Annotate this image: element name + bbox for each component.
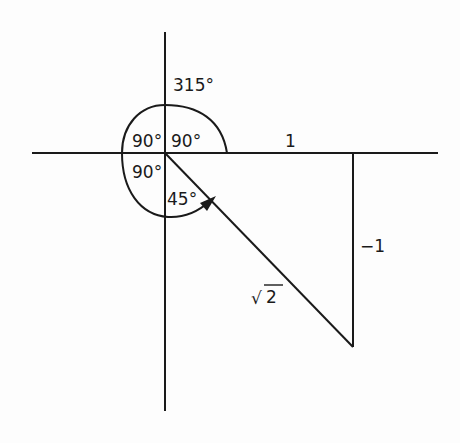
- radical-sign-icon: √: [251, 288, 262, 308]
- triangle-hypotenuse: [165, 153, 353, 347]
- radicand-2: 2: [266, 287, 277, 307]
- label-45-degrees: 45°: [167, 189, 197, 209]
- label-315-degrees: 315°: [173, 75, 214, 95]
- label-90-degrees-upper-right: 90°: [171, 131, 201, 151]
- label-90-degrees-lower-left: 90°: [132, 162, 162, 182]
- diagram-canvas: 315° 90° 90° 90° 45° 1 −1 √ 2: [0, 0, 460, 443]
- label-hypotenuse-sqrt2: √ 2: [251, 285, 283, 308]
- label-90-degrees-upper-left: 90°: [132, 131, 162, 151]
- label-side-1: 1: [285, 131, 296, 151]
- label-side-minus-1: −1: [360, 236, 385, 256]
- angle-diagram: 315° 90° 90° 90° 45° 1 −1 √ 2: [0, 0, 460, 443]
